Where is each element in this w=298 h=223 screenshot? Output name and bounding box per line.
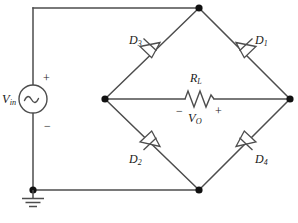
source-label: Vin bbox=[2, 93, 16, 106]
diode-d2-symbol bbox=[140, 131, 160, 150]
output-voltage-label-sub: O bbox=[196, 117, 202, 126]
ac-source-symbol bbox=[19, 85, 47, 113]
ground-icon bbox=[22, 190, 44, 207]
node-bottom bbox=[195, 186, 202, 193]
output-minus-sign: − bbox=[176, 105, 183, 117]
source-label-sub: in bbox=[10, 98, 16, 107]
diode-d3-symbol bbox=[140, 39, 160, 58]
diode-d3-label-sub: 3 bbox=[138, 39, 142, 48]
source-plus-sign: + bbox=[43, 72, 50, 84]
diode-d2-label-sub: 2 bbox=[138, 158, 142, 167]
diode-d4-label-main: D bbox=[255, 152, 264, 166]
load-resistor-label: RL bbox=[190, 72, 202, 84]
load-resistor-label-sub: L bbox=[197, 77, 201, 86]
diode-d2-label-main: D bbox=[129, 152, 138, 166]
circuit-diagram: + − Vin D3 D1 D2 D4 RL − + VO bbox=[0, 0, 298, 223]
diode-d4-symbol bbox=[236, 131, 256, 150]
diode-d1-symbol bbox=[236, 39, 256, 58]
source-minus-sign: − bbox=[44, 120, 51, 132]
node-top bbox=[195, 4, 202, 11]
diode-d4-label: D4 bbox=[255, 153, 268, 165]
node-left bbox=[101, 95, 108, 102]
diode-d3-label: D3 bbox=[129, 34, 142, 46]
output-voltage-label: VO bbox=[188, 112, 202, 125]
node-right bbox=[286, 95, 293, 102]
source-label-main: V bbox=[2, 92, 10, 106]
output-plus-sign: + bbox=[215, 105, 222, 117]
diode-d3-label-main: D bbox=[129, 33, 138, 47]
diode-d1-label-main: D bbox=[255, 33, 264, 47]
diode-d1-label-sub: 1 bbox=[264, 39, 268, 48]
output-voltage-label-main: V bbox=[188, 111, 196, 125]
resistor-symbol bbox=[185, 91, 214, 107]
circuit-schematic-svg bbox=[0, 0, 298, 223]
diode-d2-label: D2 bbox=[129, 153, 142, 165]
diode-d4-label-sub: 4 bbox=[264, 158, 268, 167]
diode-d1-label: D1 bbox=[255, 34, 268, 46]
